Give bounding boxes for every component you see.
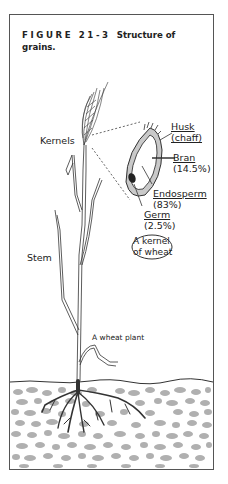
label-stem: Stem — [27, 252, 52, 263]
label-kernel-of-wheat: A kernelof wheat — [133, 236, 172, 258]
label-husk: Husk(chaff) — [171, 121, 202, 143]
label-endosperm: Endosperm(83%) — [153, 188, 207, 210]
label-germ: Germ(2.5%) — [144, 209, 176, 231]
label-kernels: Kernels — [40, 135, 75, 146]
soil — [10, 379, 213, 469]
label-wheat-plant: A wheat plant — [92, 332, 144, 343]
label-bran: Bran(14.5%) — [173, 152, 211, 174]
wheat-stalks — [55, 145, 118, 381]
wheat-illustration — [0, 0, 228, 484]
wheat-head — [82, 82, 108, 145]
